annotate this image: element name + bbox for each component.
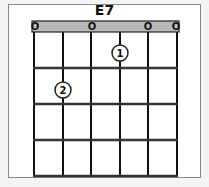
open-marker-string-1: O [31, 21, 40, 32]
finger-label-2: 2 [60, 85, 67, 96]
finger-dot-2: 2 [55, 82, 71, 98]
open-marker-string-6: O [172, 21, 181, 32]
finger-label-1: 1 [117, 48, 124, 59]
open-marker-string-3: O [88, 21, 97, 32]
nut-bar [32, 21, 179, 32]
finger-dot-1: 1 [112, 45, 128, 61]
open-marker-string-5: O [144, 21, 153, 32]
chord-chart: O O O O 1 2 [0, 0, 209, 187]
frets [33, 68, 178, 176]
